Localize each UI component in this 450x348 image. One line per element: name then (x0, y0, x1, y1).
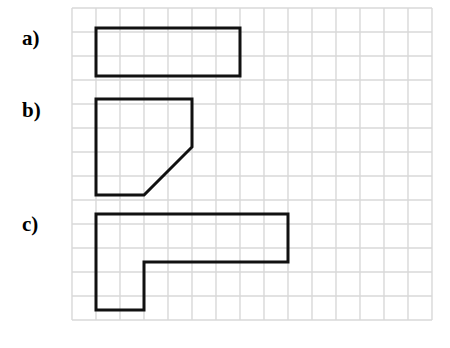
shape-label-a: a) (22, 28, 40, 49)
grid-background (0, 0, 450, 348)
shape-label-c: c) (22, 214, 38, 235)
shape-label-b: b) (22, 100, 41, 121)
figure-root: a) b) c) (0, 0, 450, 348)
grid-lines (72, 8, 432, 320)
